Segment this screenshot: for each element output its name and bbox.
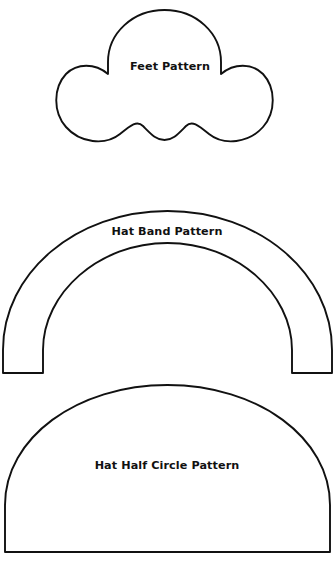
hat-band-pattern-label: Hat Band Pattern <box>112 225 223 238</box>
feet-pattern-outline[interactable] <box>56 10 273 141</box>
hat-half-circle-pattern-group[interactable]: Hat Half Circle Pattern <box>5 385 330 552</box>
feet-pattern-label: Feet Pattern <box>130 60 210 73</box>
hat-half-circle-pattern-label: Hat Half Circle Pattern <box>95 459 240 472</box>
hat-band-pattern-group[interactable]: Hat Band Pattern <box>3 211 332 373</box>
pattern-sheet: Feet Pattern Hat Band Pattern Hat Half C… <box>0 0 335 567</box>
feet-pattern-group[interactable]: Feet Pattern <box>56 10 273 141</box>
pattern-sheet-canvas: Feet Pattern Hat Band Pattern Hat Half C… <box>0 0 335 567</box>
